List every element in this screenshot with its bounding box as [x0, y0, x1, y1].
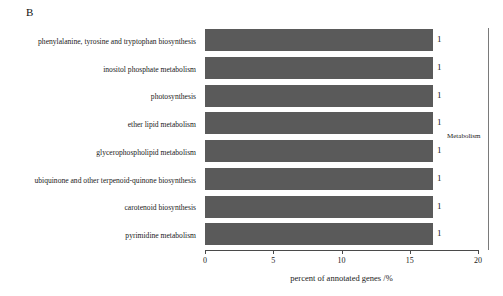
- bar: [205, 196, 433, 218]
- bar-row: 1: [205, 28, 478, 56]
- x-axis-tick: [410, 250, 411, 254]
- x-axis-tick-label: 15: [406, 255, 414, 266]
- x-axis-tick-label: 20: [474, 255, 482, 266]
- category-label: pyrimidine metabolism: [125, 231, 198, 241]
- bar: [205, 57, 433, 79]
- category-label: photosynthesis: [151, 92, 198, 102]
- x-axis-title: percent of annotated genes /%: [205, 272, 478, 284]
- bar: [205, 140, 433, 162]
- metabolism-group-label: Metabolism: [447, 131, 480, 141]
- x-axis-tick: [273, 250, 274, 254]
- category-label: ubiquinone and other terpenoid-quinone b…: [34, 176, 198, 186]
- bar-row: 1: [205, 56, 478, 84]
- bar-row: 1: [205, 111, 478, 139]
- category-label-row: ether lipid metabolism: [0, 111, 198, 139]
- category-label: glycerophospholipid metabolism: [96, 148, 198, 158]
- x-axis-tick-label: 5: [271, 255, 275, 266]
- bar-row: 1: [205, 167, 478, 195]
- bar-value-label: 1: [437, 227, 442, 239]
- bar-value-label: 1: [437, 33, 442, 45]
- bar-value-label: 1: [437, 172, 442, 184]
- x-axis-tick-label: 10: [338, 255, 346, 266]
- plot-area: 11111111: [205, 28, 478, 250]
- bar-value-label: 1: [437, 61, 442, 73]
- bar-value-label: 1: [437, 116, 442, 128]
- category-label-row: carotenoid biosynthesis: [0, 195, 198, 223]
- bar-row: 1: [205, 222, 478, 250]
- category-label-row: phenylalanine, tyrosine and tryptophan b…: [0, 28, 198, 56]
- category-label-row: glycerophospholipid metabolism: [0, 139, 198, 167]
- bar: [205, 223, 433, 245]
- metabolism-group-bracket: [488, 28, 489, 250]
- bar-value-label: 1: [437, 144, 442, 156]
- category-label: ether lipid metabolism: [128, 120, 198, 130]
- x-axis-tick: [478, 250, 479, 254]
- category-label-row: pyrimidine metabolism: [0, 222, 198, 250]
- bar: [205, 112, 433, 134]
- bar-row: 1: [205, 84, 478, 112]
- category-axis-labels: phenylalanine, tyrosine and tryptophan b…: [0, 28, 200, 250]
- category-label-row: inositol phosphate metabolism: [0, 56, 198, 84]
- panel-letter: B: [26, 6, 33, 19]
- bar-row: 1: [205, 139, 478, 167]
- x-axis-tick: [342, 250, 343, 254]
- category-label: phenylalanine, tyrosine and tryptophan b…: [38, 37, 198, 47]
- category-label: carotenoid biosynthesis: [125, 203, 199, 213]
- bar-row: 1: [205, 195, 478, 223]
- bar: [205, 85, 433, 107]
- category-label-row: ubiquinone and other terpenoid-quinone b…: [0, 167, 198, 195]
- bar-value-label: 1: [437, 200, 442, 212]
- category-label-row: photosynthesis: [0, 84, 198, 112]
- category-label: inositol phosphate metabolism: [103, 65, 198, 75]
- x-axis-tick: [205, 250, 206, 254]
- kegg-pathway-bar-chart: B phenylalanine, tyrosine and tryptophan…: [0, 0, 503, 296]
- x-axis-tick-label: 0: [203, 255, 207, 266]
- bar: [205, 29, 433, 51]
- bar-value-label: 1: [437, 89, 442, 101]
- bar: [205, 168, 433, 190]
